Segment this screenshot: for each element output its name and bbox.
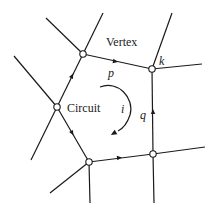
vertex-E [86,159,92,165]
edge-p [83,54,152,69]
vertex-A [54,104,60,110]
edge-E-outer-down [89,162,90,203]
label-q: q [140,108,146,122]
label-vertex: Vertex [106,35,137,49]
edge-D-outer-down [153,154,154,203]
arrow-A-B-icon [69,73,75,79]
circulation-arrow [100,85,131,137]
vertex-B [80,51,86,57]
edge-E-D [89,154,153,162]
edge-A-outer-up [14,56,57,107]
vertex-D [150,151,156,157]
arrow-E-D-icon [117,155,122,160]
arrow-q-icon [151,109,155,114]
edge-E-outer-left [50,162,89,193]
edge-B-outer-up [83,13,103,54]
label-k: k [159,54,165,68]
edge-A-B [57,54,83,107]
vertex-k [149,66,155,72]
edge-D-outer-right [153,147,205,154]
label-circuit: Circuit [67,101,101,115]
clockwise-arrow-icon [110,130,118,138]
edge-A-outer-down [31,107,57,160]
label-p: p [107,66,114,80]
label-i: i [121,102,124,116]
edge-B-outer-left [46,18,83,54]
circulation-arc [100,85,131,131]
arrow-A-E-icon [69,130,75,137]
circuit-diagram: Vertex Circuit k p q i [0,0,215,214]
labels: Vertex Circuit k p q i [67,35,165,122]
